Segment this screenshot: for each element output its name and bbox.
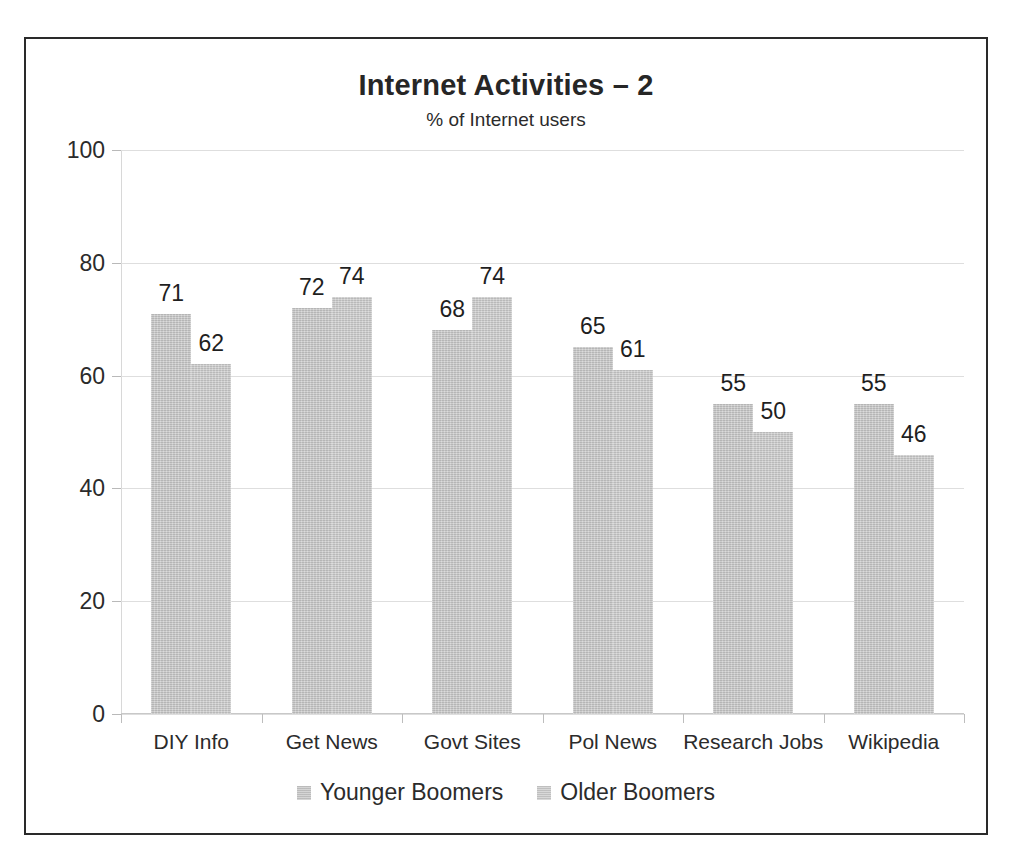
y-tick-mark-40 bbox=[112, 488, 121, 489]
y-tick-mark-20 bbox=[112, 601, 121, 602]
chart-legend: Younger BoomersOlder Boomers bbox=[26, 779, 986, 806]
chart-title: Internet Activities – 2 bbox=[26, 69, 986, 102]
gridline-40 bbox=[121, 488, 964, 489]
bar-value-label: 50 bbox=[743, 398, 803, 425]
bar-wikipedia-younger-boomers[interactable] bbox=[854, 404, 894, 714]
y-tick-mark-80 bbox=[112, 263, 121, 264]
y-axis-line bbox=[121, 150, 122, 714]
bar-research-jobs-younger-boomers[interactable] bbox=[713, 404, 753, 714]
x-tick-mark bbox=[121, 714, 122, 723]
bar-pol-news-older-boomers[interactable] bbox=[613, 370, 653, 714]
bar-value-label: 71 bbox=[141, 280, 201, 307]
bar-diy-info-older-boomers[interactable] bbox=[191, 364, 231, 714]
bar-diy-info-younger-boomers[interactable] bbox=[151, 314, 191, 714]
chart-frame: Internet Activities – 2 % of Internet us… bbox=[24, 37, 988, 835]
gridline-80 bbox=[121, 263, 964, 264]
bar-get-news-older-boomers[interactable] bbox=[332, 297, 372, 714]
bar-value-label: 46 bbox=[884, 421, 944, 448]
x-tick-mark bbox=[543, 714, 544, 723]
y-tick-label-80: 80 bbox=[79, 249, 105, 276]
bar-value-label: 55 bbox=[844, 370, 904, 397]
gridline-100 bbox=[121, 150, 964, 151]
bar-value-label: 74 bbox=[322, 263, 382, 290]
x-axis-label-wikipedia: Wikipedia bbox=[804, 730, 984, 754]
y-tick-mark-100 bbox=[112, 150, 121, 151]
x-tick-mark bbox=[262, 714, 263, 723]
legend-swatch-icon bbox=[297, 786, 311, 800]
legend-swatch-icon bbox=[537, 786, 551, 800]
y-tick-mark-0 bbox=[112, 714, 121, 715]
bar-wikipedia-older-boomers[interactable] bbox=[894, 455, 934, 714]
bar-value-label: 55 bbox=[703, 370, 763, 397]
x-tick-mark bbox=[824, 714, 825, 723]
gridline-60 bbox=[121, 376, 964, 377]
plot-area: 020406080100 716272746874656155505546 DI… bbox=[121, 150, 964, 714]
x-tick-mark bbox=[964, 714, 965, 723]
chart-subtitle: % of Internet users bbox=[26, 109, 986, 131]
bar-value-label: 74 bbox=[462, 263, 522, 290]
y-tick-label-40: 40 bbox=[79, 475, 105, 502]
x-tick-mark bbox=[683, 714, 684, 723]
legend-item-older-boomers[interactable]: Older Boomers bbox=[537, 779, 715, 806]
y-tick-label-100: 100 bbox=[67, 137, 105, 164]
legend-label: Older Boomers bbox=[560, 779, 715, 806]
y-tick-mark-60 bbox=[112, 376, 121, 377]
y-tick-label-20: 20 bbox=[79, 588, 105, 615]
bar-govt-sites-younger-boomers[interactable] bbox=[432, 330, 472, 714]
bar-value-label: 62 bbox=[181, 330, 241, 357]
bar-pol-news-younger-boomers[interactable] bbox=[573, 347, 613, 714]
bar-value-label: 61 bbox=[603, 336, 663, 363]
bar-get-news-younger-boomers[interactable] bbox=[292, 308, 332, 714]
legend-item-younger-boomers[interactable]: Younger Boomers bbox=[297, 779, 503, 806]
bar-research-jobs-older-boomers[interactable] bbox=[753, 432, 793, 714]
legend-label: Younger Boomers bbox=[320, 779, 503, 806]
y-tick-label-60: 60 bbox=[79, 362, 105, 389]
y-tick-label-0: 0 bbox=[92, 701, 105, 728]
gridline-20 bbox=[121, 601, 964, 602]
x-tick-mark bbox=[402, 714, 403, 723]
bar-govt-sites-older-boomers[interactable] bbox=[472, 297, 512, 714]
